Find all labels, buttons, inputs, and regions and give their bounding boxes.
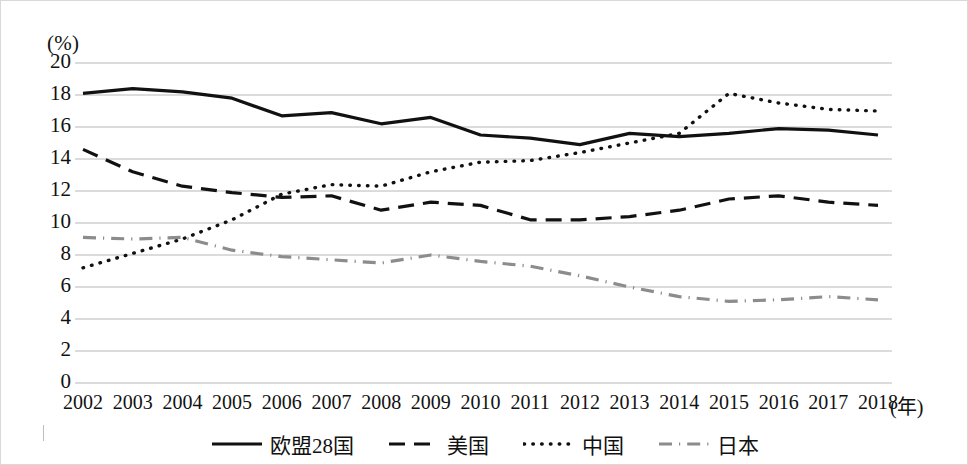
x-axis-tick-label: 2016	[759, 391, 799, 414]
series-line-0	[83, 89, 878, 145]
y-axis-tick-label: 6	[31, 273, 71, 298]
y-axis-tick-label: 18	[31, 81, 71, 106]
y-axis-tick-label: 8	[31, 241, 71, 266]
x-axis-unit-label: (年)	[890, 391, 923, 420]
y-axis-tick-label: 14	[31, 145, 71, 170]
legend-swatch-3	[658, 437, 710, 451]
legend-item-0[interactable]: 欧盟28国	[211, 429, 354, 459]
legend-item-2[interactable]: 中国	[523, 429, 624, 459]
legend-item-3[interactable]: 日本	[658, 429, 759, 459]
y-axis-tick-label: 4	[31, 305, 71, 330]
y-axis-tick-label: 12	[31, 177, 71, 202]
legend-label-0: 欧盟28国	[270, 429, 354, 459]
legend-label-2: 中国	[582, 429, 624, 459]
chart-figure: (%) 02468101214161820 200220032004200520…	[0, 0, 968, 465]
legend-label-3: 日本	[717, 429, 759, 459]
legend-swatch-2	[523, 437, 575, 451]
x-axis-tick-label: 2015	[709, 391, 749, 414]
gridlines	[75, 63, 892, 383]
legend-label-1: 美国	[447, 429, 489, 459]
x-axis-tick-label: 2014	[659, 391, 699, 414]
x-axis-tick-label: 2006	[262, 391, 302, 414]
x-axis-tick-label: 2009	[411, 391, 451, 414]
legend-swatch-0	[211, 437, 263, 451]
x-axis-tick-label: 2012	[560, 391, 600, 414]
legend-swatch-1	[388, 437, 440, 451]
series-line-3	[83, 237, 878, 301]
x-axis-tick-label: 2007	[311, 391, 351, 414]
y-axis-tick-label: 20	[31, 49, 71, 74]
chart-legend: 欧盟28国美国中国日本	[1, 429, 968, 459]
x-axis-tick-label: 2002	[63, 391, 103, 414]
x-axis-tick-label: 2013	[610, 391, 650, 414]
series-lines	[83, 89, 878, 302]
y-axis-tick-label: 2	[31, 337, 71, 362]
x-axis-tick-label: 2005	[212, 391, 252, 414]
x-axis-tick-label: 2010	[461, 391, 501, 414]
x-axis-tick-label: 2008	[361, 391, 401, 414]
x-axis-tick-label: 2011	[511, 391, 550, 414]
series-line-1	[83, 149, 878, 219]
legend-item-1[interactable]: 美国	[388, 429, 489, 459]
x-axis-tick-label: 2004	[162, 391, 202, 414]
x-axis-tick-label: 2003	[113, 391, 153, 414]
x-axis-tick-label: 2017	[808, 391, 848, 414]
y-axis-tick-label: 16	[31, 113, 71, 138]
y-axis-tick-label: 10	[31, 209, 71, 234]
